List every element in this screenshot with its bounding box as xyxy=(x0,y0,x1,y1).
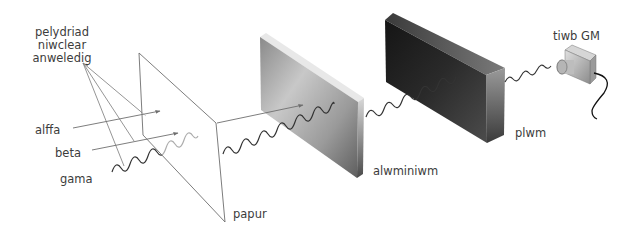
source-label: pelydriad niwclear anweledig xyxy=(32,26,92,65)
source-pointer-lines xyxy=(83,63,146,166)
aluminium-label: alwminiwm xyxy=(373,165,438,178)
gamma-label: gama xyxy=(60,173,93,186)
source-label-line-3: anweledig xyxy=(32,52,92,65)
paper-label: papur xyxy=(233,208,267,221)
lead-block xyxy=(385,13,505,143)
aluminium-block xyxy=(260,33,364,178)
gamma-wave-4 xyxy=(505,65,551,82)
alpha-label: alffa xyxy=(35,124,60,137)
beta-label: beta xyxy=(55,147,81,160)
radiation-diagram xyxy=(0,0,639,238)
lead-label: plwm xyxy=(515,127,546,140)
detector-label: tiwb GM xyxy=(553,30,600,43)
paper-sheet xyxy=(139,53,225,222)
gm-tube-detector xyxy=(557,45,607,119)
